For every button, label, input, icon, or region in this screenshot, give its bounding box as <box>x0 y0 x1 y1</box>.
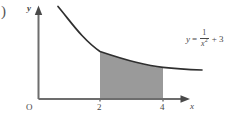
equation-fraction: 1 x2 <box>200 29 209 48</box>
denominator-exponent: 2 <box>205 37 208 43</box>
curve-equation-label: y = 1 x2 + 3 <box>186 29 223 48</box>
curve-path <box>58 7 202 71</box>
figure-number-paren: ) <box>1 4 6 19</box>
x-axis-label: x <box>190 102 194 111</box>
shaded-region <box>100 52 163 100</box>
graph-canvas <box>0 0 248 122</box>
equation-lhs: y <box>186 34 190 44</box>
equation-equals-sign: = <box>192 34 197 44</box>
x-tick-label-4: 4 <box>160 103 165 112</box>
figure-container: ) y x O 2 4 y = 1 x2 + 3 <box>0 0 248 122</box>
x-tick-label-2: 2 <box>97 103 102 112</box>
y-axis-label: y <box>27 4 31 13</box>
fraction-denominator: x2 <box>200 39 209 48</box>
origin-label: O <box>26 103 33 112</box>
y-axis-arrowhead <box>35 6 42 16</box>
equation-tail: + 3 <box>212 34 224 44</box>
x-axis-arrowhead <box>181 95 191 102</box>
